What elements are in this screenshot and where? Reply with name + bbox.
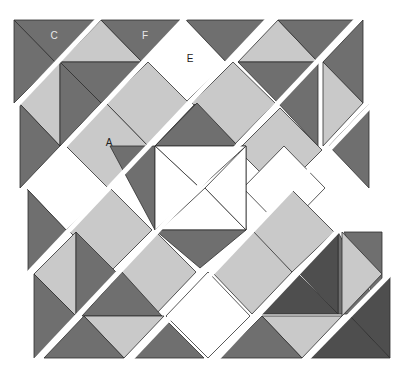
piece-label-c: C [50,30,57,41]
piece-label-f: F [142,30,148,41]
quilt-pieces [14,20,390,358]
quilt-diagram: CFEA [0,0,404,378]
piece-label-a: A [106,137,113,148]
piece-label-e: E [187,53,194,64]
